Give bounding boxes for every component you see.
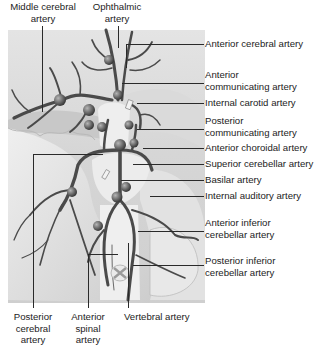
label-anterior-spinal-artery: Anterior spinal artery	[62, 311, 114, 346]
leader-posterior-communicating	[137, 129, 204, 130]
label-basilar-artery: Basilar artery	[205, 174, 262, 186]
spinal-cord-section	[111, 265, 129, 281]
leader-posterior-cerebral-v	[33, 154, 34, 308]
leader-middle-cerebral	[42, 26, 43, 112]
leader-anterior-cerebral-v	[126, 44, 127, 68]
leader-anterior-communicating	[122, 83, 204, 84]
leader-anterior-inferior-cerebellar	[138, 231, 204, 232]
leader-anterior-choroidal	[143, 148, 204, 149]
label-anterior-cerebral-artery: Anterior cerebral artery	[205, 38, 303, 50]
label-anterior-communicating-artery: Anterior communicating artery	[205, 69, 297, 92]
leader-ophthalmic	[118, 26, 119, 48]
label-vertebral-artery: Vertebral artery	[124, 311, 190, 323]
leader-anterior-cerebral-h	[126, 44, 204, 45]
leader-anterior-spinal-h	[88, 254, 118, 255]
leader-superior-cerebellar	[133, 164, 204, 165]
leader-basilar	[121, 180, 204, 181]
brain-artery-illustration	[0, 0, 323, 348]
leader-internal-auditory	[150, 196, 204, 197]
label-internal-carotid-artery: Internal carotid artery	[205, 97, 296, 109]
label-middle-cerebral-artery: Middle cerebral artery	[4, 1, 82, 24]
label-ophthalmic-artery: Ophthalmic artery	[86, 1, 148, 24]
leader-anterior-spinal-v	[88, 254, 89, 308]
label-superior-cerebellar-artery: Superior cerebellar artery	[205, 158, 313, 170]
label-posterior-inferior-cerebellar-artery: Posterior inferior cerebellar artery	[205, 255, 275, 278]
label-posterior-communicating-artery: Posterior communicating artery	[205, 115, 297, 138]
label-anterior-inferior-cerebellar-artery: Anterior inferior cerebellar artery	[205, 217, 274, 240]
leader-internal-carotid	[137, 103, 204, 104]
leader-vertebral	[128, 243, 129, 308]
label-posterior-cerebral-artery: Posterior cerebral artery	[4, 311, 62, 346]
leader-posterior-cerebral-h	[33, 154, 103, 155]
label-anterior-choroidal-artery: Anterior choroidal artery	[205, 142, 307, 154]
label-internal-auditory-artery: Internal auditory artery	[205, 190, 301, 202]
leader-posterior-inferior-cerebellar	[133, 265, 204, 266]
